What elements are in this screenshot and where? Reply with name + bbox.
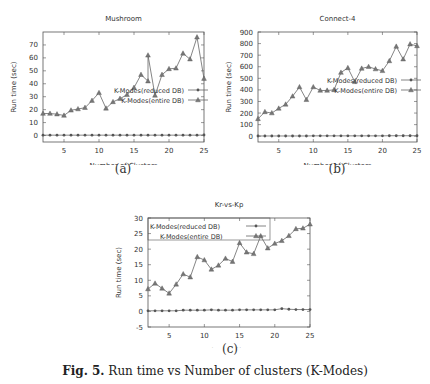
x-tick-label: 20: [165, 147, 174, 155]
triangle-marker: [174, 66, 179, 70]
triangle-marker: [188, 57, 193, 61]
circle-marker: [302, 308, 305, 311]
y-tick-label: 5: [139, 292, 143, 300]
y-tick-label: 15: [134, 261, 143, 269]
y-tick-label: 20: [134, 246, 143, 254]
circle-marker: [168, 134, 171, 137]
circle-marker: [291, 135, 294, 138]
circle-marker: [147, 134, 150, 137]
chart-kr-vs-kp-plot: Kr-vs-Kp-5051015202530510152025Number of…: [105, 188, 325, 348]
triangle-marker: [153, 281, 158, 285]
circle-marker: [252, 308, 255, 311]
legend-label: K-Modes(reduced DB): [114, 87, 184, 95]
circle-marker: [238, 308, 241, 311]
figure-caption: Fig. 5. Run time vs Number of clusters (…: [0, 364, 430, 378]
y-tick-label: 100: [240, 121, 253, 129]
triangle-marker: [308, 222, 313, 226]
x-tick-label: 10: [200, 332, 209, 340]
x-tick-label: 25: [413, 147, 422, 155]
triangle-marker: [394, 44, 399, 48]
circle-marker: [287, 308, 290, 311]
y-tick-label: 0: [34, 132, 38, 140]
triangle-marker: [339, 70, 344, 74]
circle-marker: [105, 134, 108, 137]
triangle-marker: [237, 240, 242, 244]
chart-title: Connect-4: [320, 15, 356, 23]
circle-marker: [270, 135, 273, 138]
x-tick-label: 10: [309, 147, 318, 155]
legend: K-Modes(reduced DB)K-Modes(entire DB): [327, 77, 421, 95]
circle-marker: [305, 135, 308, 138]
x-tick-label: 10: [95, 147, 104, 155]
y-axis-label: Run time (sec): [10, 61, 18, 112]
circle-marker: [210, 308, 213, 311]
chart-mushroom-plot: Mushroom010203040506070510152025Number o…: [0, 0, 215, 165]
x-tick-label: 5: [277, 147, 281, 155]
y-tick-label: 70: [29, 41, 38, 49]
circle-marker: [326, 134, 329, 137]
y-tick-label: 10: [29, 119, 38, 127]
circle-marker: [119, 134, 122, 137]
y-axis-label: Run time (sec): [115, 247, 123, 298]
circle-marker: [56, 134, 59, 137]
circle-marker: [298, 135, 301, 138]
y-tick-label: 10: [134, 277, 143, 285]
legend-label: K-Modes(reduced DB): [150, 223, 220, 231]
triangle-marker: [297, 84, 302, 88]
triangle-marker: [279, 238, 284, 242]
chart-kr-vs-kp: Kr-vs-Kp-5051015202530510152025Number of…: [105, 188, 325, 358]
series-line: [148, 309, 310, 311]
triangle-marker: [181, 51, 186, 55]
triangle-marker: [301, 226, 306, 230]
circle-marker: [175, 134, 178, 137]
triangle-marker: [146, 53, 151, 57]
circle-marker: [154, 134, 157, 137]
triangle-marker: [146, 286, 151, 290]
circle-marker: [98, 134, 101, 137]
legend-label: K-Modes(reduced DB): [327, 77, 397, 85]
legend-label: K-Modes(entire DB): [121, 97, 184, 105]
y-tick-label: 40: [29, 80, 38, 88]
x-tick-label: 15: [130, 147, 139, 155]
y-tick-label: 60: [29, 54, 38, 62]
x-tick-label: 25: [200, 147, 209, 155]
circle-marker: [112, 134, 115, 137]
legend-label: K-Modes(entire DB): [334, 87, 397, 95]
circle-marker: [374, 134, 377, 137]
x-tick-label: 5: [62, 147, 66, 155]
y-tick-label: 900: [240, 29, 253, 37]
x-tick-label: 20: [270, 332, 279, 340]
circle-marker: [231, 309, 234, 312]
circle-marker: [189, 309, 192, 312]
legend-circle-marker: [410, 79, 413, 82]
triangle-marker: [276, 106, 281, 110]
circle-marker: [416, 134, 419, 137]
circle-marker: [257, 135, 260, 138]
y-tick-label: 50: [29, 67, 38, 75]
circle-marker: [147, 309, 150, 312]
circle-marker: [312, 134, 315, 137]
circle-marker: [273, 308, 276, 311]
triangle-marker: [160, 286, 165, 290]
circle-marker: [154, 309, 157, 312]
circle-marker: [280, 307, 283, 310]
circle-marker: [189, 134, 192, 137]
circle-marker: [196, 309, 199, 312]
triangle-marker: [345, 65, 350, 69]
chart-mushroom: Mushroom010203040506070510152025Number o…: [0, 0, 215, 180]
circle-marker: [70, 134, 73, 137]
circle-marker: [295, 308, 298, 311]
y-tick-label: 0: [139, 308, 143, 316]
circle-marker: [182, 134, 185, 137]
circle-marker: [360, 134, 363, 137]
legend: K-Modes(reduced DB)K-Modes(entire DB): [148, 218, 270, 241]
circle-marker: [203, 309, 206, 312]
y-tick-label: 0: [249, 133, 253, 141]
triangle-marker: [401, 57, 406, 61]
triangle-marker: [97, 90, 102, 94]
y-tick-label: 30: [134, 215, 143, 223]
triangle-marker: [223, 256, 228, 260]
triangle-marker: [202, 76, 207, 80]
circle-marker: [388, 134, 391, 137]
triangle-marker: [195, 35, 200, 39]
